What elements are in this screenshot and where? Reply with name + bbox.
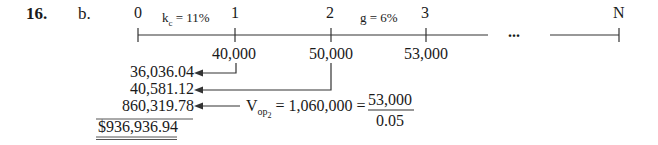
pv-item-2: 40,581.12 [94, 80, 194, 98]
ellipsis: ... [508, 23, 520, 41]
pv-total: $936,936.94 [78, 118, 178, 136]
fraction-numerator: 53,000 [368, 91, 412, 109]
cash-flow-3: 53,000 [404, 45, 448, 63]
fraction-denominator: 0.05 [376, 112, 404, 130]
terminal-value-equation: Vop2 = 1,060,000 = [246, 97, 366, 120]
cash-flow-2: 50,000 [309, 45, 353, 63]
pv-item-3: 860,319.78 [94, 97, 194, 115]
pv-item-1: 36,036.04 [94, 63, 194, 81]
cash-flow-1: 40,000 [212, 45, 256, 63]
